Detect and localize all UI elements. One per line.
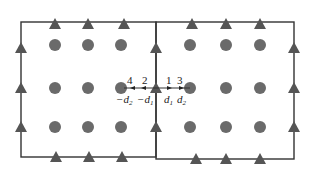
lattice-triangle: [288, 42, 300, 53]
lattice-circle: [49, 121, 61, 133]
lattice-triangle: [150, 121, 162, 132]
arrow-head-2: [141, 86, 146, 90]
lattice-triangle: [150, 42, 162, 53]
lattice-circle: [254, 82, 266, 94]
lattice-triangle: [288, 121, 300, 132]
label-4: 4: [127, 74, 133, 86]
lattice-circle: [184, 39, 196, 51]
lattice-triangle: [15, 121, 27, 132]
lattice-circle: [82, 121, 94, 133]
lattice-circle: [220, 121, 232, 133]
lattice-triangle: [15, 42, 27, 53]
label-d2: d2: [177, 93, 187, 107]
label-2: 2: [142, 74, 148, 86]
arrow-head-1: [167, 86, 172, 90]
lattice-circle: [220, 82, 232, 94]
arrow-head-3: [179, 86, 184, 90]
label-neg-d2: −d2: [116, 93, 133, 107]
lattice-circle: [115, 39, 127, 51]
lattice-circle: [49, 39, 61, 51]
lattice-triangle: [288, 82, 300, 93]
label-3: 3: [177, 74, 183, 86]
label-neg-d1: −d1: [137, 93, 153, 107]
lattice-circle: [82, 39, 94, 51]
lattice-triangle: [15, 82, 27, 93]
lattice-circle: [49, 82, 61, 94]
lattice-diagram: 4 2 1 3 −d2 −d1 d1 d2: [0, 0, 311, 178]
lattice-circle: [184, 121, 196, 133]
lattice-triangle: [49, 18, 61, 29]
lattice-triangle: [220, 18, 232, 29]
label-1: 1: [166, 74, 172, 86]
arrow-head-4: [130, 86, 135, 90]
lattice-circle: [254, 121, 266, 133]
lattice-circle: [115, 121, 127, 133]
lattice-triangle: [254, 18, 266, 29]
lattice-circle: [254, 39, 266, 51]
label-d1: d1: [164, 93, 173, 107]
lattice-triangle: [82, 18, 94, 29]
lattice-circle: [220, 39, 232, 51]
lattice-circle: [82, 82, 94, 94]
lattice-triangle: [186, 18, 198, 29]
lattice-triangle: [118, 18, 130, 29]
